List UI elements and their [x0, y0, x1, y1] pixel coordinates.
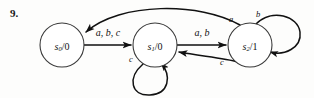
transition-label-s2-self: b [256, 9, 260, 19]
self-loop-s1-path [133, 63, 167, 95]
state-label-s2: s2/1 [243, 40, 258, 51]
transition-label-s1-self: c [129, 54, 133, 64]
transition-label-s0-s1: a, b, c [96, 27, 121, 38]
state-output-s2: 1 [252, 40, 257, 51]
transition-label-s2-s1: c [220, 57, 224, 67]
transition-label-s2-s0: a [229, 14, 233, 24]
state-machine-diagram: s0/0 s1/0 s2/1 a, b, c a, b c b a c [0, 0, 314, 98]
state-output-s1: 0 [157, 40, 162, 51]
state-output-s0: 0 [64, 40, 69, 51]
state-label-s1: s1/0 [148, 40, 163, 51]
figure-root: 9. s0/0 s1/0 [0, 0, 314, 98]
transition-label-s1-s2: a, b [195, 27, 210, 38]
state-label-s0: s0/0 [55, 40, 70, 51]
